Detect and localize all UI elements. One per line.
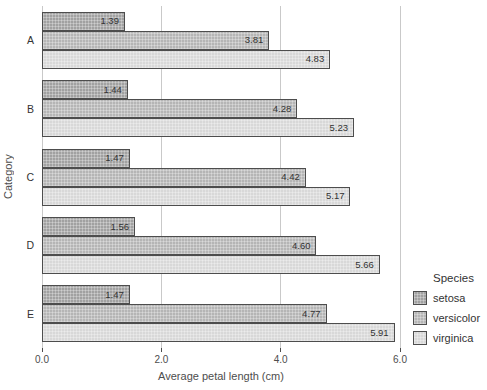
legend-swatch-versicolor	[413, 311, 427, 325]
bar-C-versicolor: 4.42	[42, 168, 306, 187]
bar-B-virginica: 5.23	[42, 118, 354, 137]
bar-group-C: 1.474.425.17	[42, 143, 400, 211]
tick-label-6: 6.0	[383, 354, 417, 365]
bar-C-virginica: 5.17	[42, 187, 350, 206]
legend-entry-versicolor: versicolor	[413, 311, 485, 325]
tick-label-2: 2.0	[144, 354, 178, 365]
bar-value-label: 3.81	[245, 35, 264, 45]
tick-mark-6	[400, 348, 401, 352]
bar-value-label: 4.77	[302, 309, 321, 319]
bar-A-virginica: 4.83	[42, 50, 330, 69]
bar-D-virginica: 5.66	[42, 255, 380, 274]
legend-swatch-virginica	[413, 331, 427, 345]
legend-entry-setosa: setosa	[413, 291, 485, 305]
bar-E-setosa: 1.47	[42, 285, 130, 304]
bar-groups: 1.393.814.831.444.285.231.474.425.171.56…	[42, 6, 400, 348]
bar-value-label: 5.91	[370, 328, 389, 338]
category-label-B: B	[0, 103, 34, 115]
legend-label-setosa: setosa	[433, 292, 465, 304]
x-axis-title: Average petal length (cm)	[42, 370, 400, 382]
bar-D-versicolor: 4.60	[42, 236, 316, 255]
bar-D-setosa: 1.56	[42, 217, 135, 236]
bar-value-label: 4.42	[281, 172, 300, 182]
bar-value-label: 5.17	[326, 191, 345, 201]
legend-label-versicolor: versicolor	[433, 312, 480, 324]
bar-value-label: 1.47	[105, 290, 124, 300]
bar-B-setosa: 1.44	[42, 80, 128, 99]
bar-group-A: 1.393.814.83	[42, 6, 400, 74]
bar-group-E: 1.474.775.91	[42, 280, 400, 348]
tick-label-4: 4.0	[264, 354, 298, 365]
tick-mark-4	[280, 348, 281, 352]
legend-entries: setosaversicolorvirginica	[413, 291, 485, 345]
bar-value-label: 1.47	[105, 153, 124, 163]
bar-value-label: 4.60	[292, 241, 311, 251]
bar-group-D: 1.564.605.66	[42, 211, 400, 279]
bar-B-versicolor: 4.28	[42, 99, 297, 118]
plot-area: 1.393.814.831.444.285.231.474.425.171.56…	[42, 6, 400, 348]
bar-value-label: 1.56	[111, 222, 130, 232]
bar-E-virginica: 5.91	[42, 323, 395, 342]
category-label-E: E	[0, 308, 34, 320]
bar-value-label: 5.23	[330, 123, 349, 133]
legend-swatch-setosa	[413, 291, 427, 305]
category-label-A: A	[0, 34, 34, 46]
legend-title: Species	[433, 272, 485, 284]
legend-entry-virginica: virginica	[413, 331, 485, 345]
bar-value-label: 5.66	[355, 260, 374, 270]
category-label-D: D	[0, 239, 34, 251]
legend: Species setosaversicolorvirginica	[413, 272, 485, 351]
x-axis-ticks: 0.02.04.06.0	[42, 348, 400, 368]
bar-group-B: 1.444.285.23	[42, 74, 400, 142]
bar-value-label: 1.44	[103, 85, 122, 95]
legend-label-virginica: virginica	[433, 332, 473, 344]
tick-mark-0	[42, 348, 43, 352]
tick-mark-2	[161, 348, 162, 352]
bar-C-setosa: 1.47	[42, 149, 130, 168]
tick-label-0: 0.0	[25, 354, 59, 365]
y-axis-category-labels: ABCDE	[0, 6, 42, 348]
bar-A-setosa: 1.39	[42, 12, 125, 31]
category-label-C: C	[0, 171, 34, 183]
bar-A-versicolor: 3.81	[42, 31, 269, 50]
bar-value-label: 4.83	[306, 54, 325, 64]
petal-length-bar-chart: Category 1.393.814.831.444.285.231.474.4…	[0, 0, 487, 390]
bar-value-label: 4.28	[273, 104, 292, 114]
bar-value-label: 1.39	[100, 16, 119, 26]
bar-E-versicolor: 4.77	[42, 304, 327, 323]
